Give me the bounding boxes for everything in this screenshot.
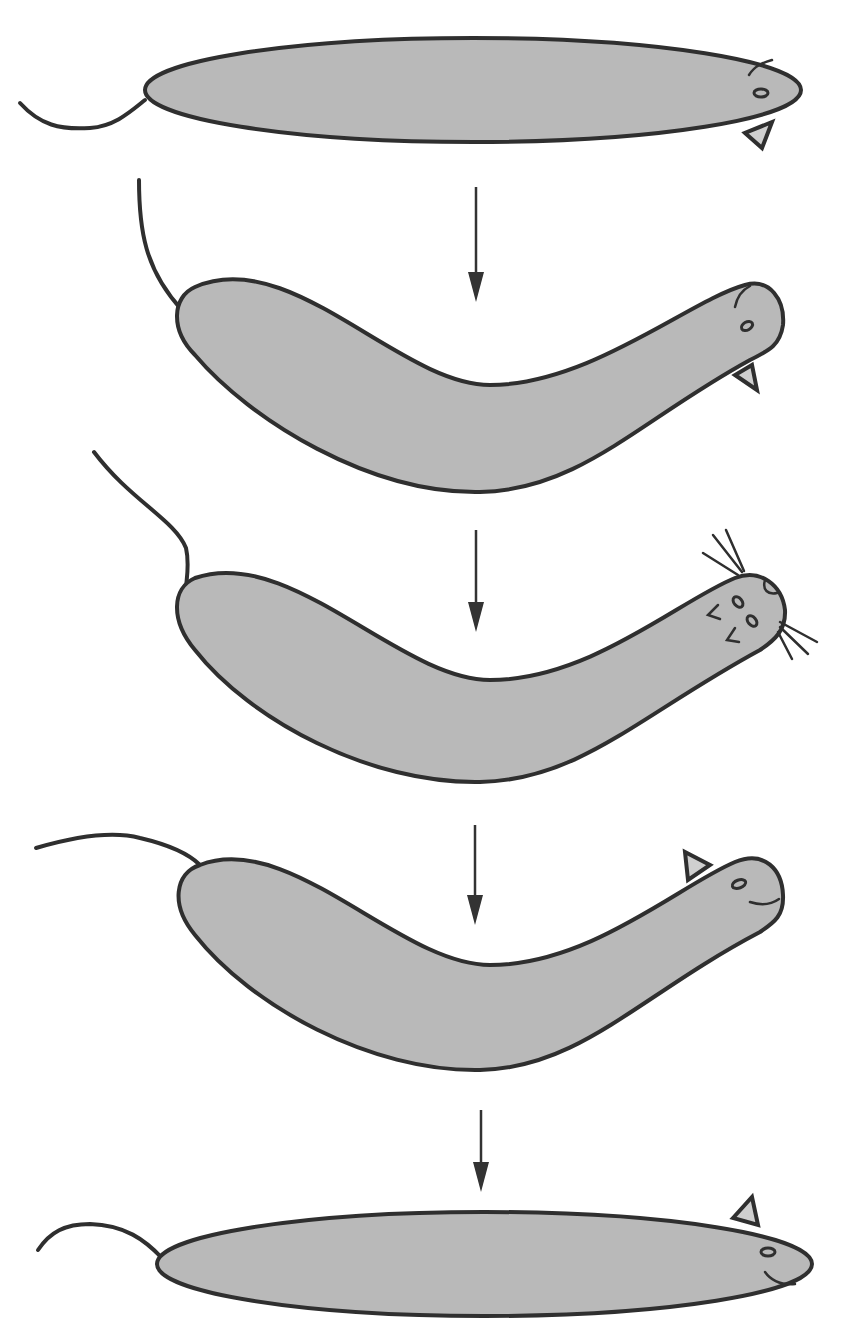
rodent-body xyxy=(177,279,783,492)
tail-icon xyxy=(20,100,145,128)
tail-icon xyxy=(94,452,188,590)
rodent-body xyxy=(157,1212,812,1316)
rodent-body xyxy=(179,858,784,1070)
arrow-down-icon xyxy=(468,187,484,302)
rodent-body xyxy=(145,38,801,142)
arrow-down-icon xyxy=(473,1110,489,1192)
tail-icon xyxy=(36,835,200,865)
ear-up-icon xyxy=(733,1197,758,1225)
posture-sequence-diagram xyxy=(0,0,841,1344)
arrow-down-icon xyxy=(468,530,484,632)
stage-2-rodent xyxy=(139,180,783,492)
whisker-icon xyxy=(780,627,808,654)
arrow-down-icon xyxy=(467,825,483,925)
stage-4-rodent xyxy=(36,835,783,1070)
stage-5-rodent xyxy=(38,1197,812,1316)
tail-icon xyxy=(38,1224,162,1258)
tail-icon xyxy=(139,180,182,310)
whisker-icon xyxy=(703,553,738,575)
stage-1-rodent xyxy=(20,38,801,148)
ear-down-icon xyxy=(745,122,772,148)
stage-3-rodent xyxy=(94,452,817,782)
